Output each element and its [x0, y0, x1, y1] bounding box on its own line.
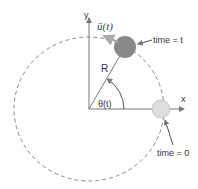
velocity-arrow — [104, 36, 118, 42]
y-axis-label: y — [84, 10, 89, 20]
circular-motion-diagram: y x R θ(t) ū(t) time = t time = 0 — [0, 0, 198, 189]
time-0-label: time = 0 — [157, 148, 189, 158]
ball-time-0 — [152, 100, 170, 118]
x-axis-label: x — [181, 94, 186, 104]
pointer-time-0 — [165, 120, 173, 145]
radius-label: R — [101, 63, 108, 74]
time-t-label: time = t — [153, 35, 183, 45]
velocity-label: ū(t) — [97, 20, 113, 33]
angle-label: θ(t) — [98, 99, 112, 109]
ball-time-t — [114, 36, 136, 58]
pointer-time-t — [138, 40, 152, 44]
